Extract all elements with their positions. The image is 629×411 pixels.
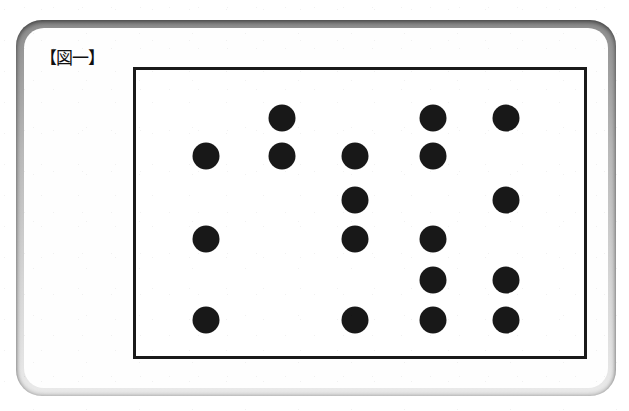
data-point-dot	[342, 143, 369, 170]
data-point-dot	[420, 105, 447, 132]
data-point-dot	[193, 143, 220, 170]
data-point-dot	[493, 267, 520, 294]
data-point-dot	[493, 307, 520, 334]
dot-grid	[136, 70, 584, 356]
figure-label: 【図一】	[40, 50, 104, 67]
data-point-dot	[193, 226, 220, 253]
data-point-dot	[342, 187, 369, 214]
data-point-dot	[269, 143, 296, 170]
data-point-dot	[342, 307, 369, 334]
data-point-dot	[420, 267, 447, 294]
figure-screen: 【図一】	[0, 0, 629, 411]
data-point-dot	[342, 226, 369, 253]
data-point-dot	[493, 187, 520, 214]
figure-frame	[133, 67, 587, 359]
data-point-dot	[269, 105, 296, 132]
data-point-dot	[193, 307, 220, 334]
data-point-dot	[493, 105, 520, 132]
data-point-dot	[420, 143, 447, 170]
data-point-dot	[420, 307, 447, 334]
data-point-dot	[420, 226, 447, 253]
